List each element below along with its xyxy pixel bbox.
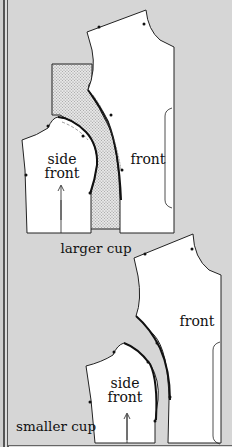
larger-cup-group: [22, 10, 174, 233]
label-side: side: [40, 152, 84, 166]
smaller-cup-group: [86, 234, 221, 444]
pattern-illustration: side front front larger cup front side f…: [0, 0, 232, 447]
label-side-front-bottom: side front: [103, 376, 147, 404]
label-front: front: [40, 166, 84, 180]
label-front: front: [103, 390, 147, 404]
caption-larger-cup: larger cup: [58, 241, 134, 255]
label-front-bottom: front: [175, 314, 219, 328]
label-front-top: front: [126, 152, 170, 166]
label-side-front-top: side front: [40, 152, 84, 180]
label-side: side: [103, 376, 147, 390]
caption-smaller-cup: smaller cup: [16, 419, 96, 433]
